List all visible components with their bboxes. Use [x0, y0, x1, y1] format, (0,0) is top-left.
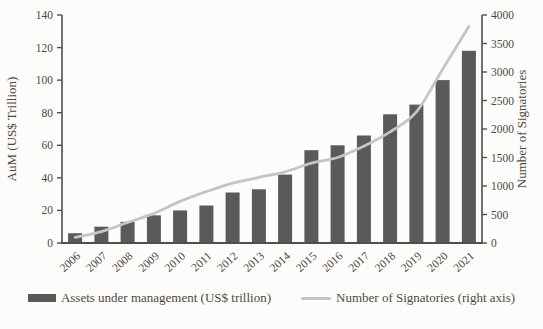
right-axis-tick-label: 0: [491, 237, 497, 249]
chart-area: 0204060801001201400500100015002000250030…: [0, 0, 543, 284]
x-axis-year-label: 2012: [215, 249, 240, 273]
bar-2019: [409, 105, 423, 243]
x-axis-year-label: 2019: [399, 249, 424, 273]
bar-2020: [436, 80, 450, 243]
bar-2011: [199, 206, 213, 244]
x-axis-year-label: 2010: [162, 249, 187, 273]
right-axis-tick-label: 1000: [491, 180, 514, 192]
x-axis-year-label: 2015: [294, 249, 319, 273]
x-axis-year-label: 2014: [267, 249, 292, 273]
right-axis-tick-label: 2000: [491, 123, 514, 135]
bar-2017: [357, 136, 371, 244]
right-axis-title: Number of Signatories: [514, 70, 529, 188]
left-axis-tick-label: 40: [42, 172, 54, 184]
bar-2014: [278, 175, 292, 243]
x-axis-year-label: 2006: [57, 249, 82, 273]
pri-growth-figure: 0204060801001201400500100015002000250030…: [0, 0, 543, 329]
bar-2012: [226, 193, 240, 244]
right-axis-tick-label: 2500: [491, 95, 514, 107]
x-axis-year-label: 2009: [136, 249, 161, 273]
bar-2013: [252, 189, 266, 243]
left-axis-tick-label: 0: [47, 237, 53, 249]
x-axis-year-label: 2017: [346, 249, 371, 273]
x-axis-year-label: 2008: [110, 249, 135, 273]
legend-item-signatories: Number of Signatories (right axis): [301, 290, 515, 306]
line-series-swatch-icon: [301, 297, 331, 300]
left-axis-tick-label: 100: [36, 74, 54, 86]
x-axis-year-label: 2020: [425, 249, 450, 273]
bar-2021: [462, 51, 476, 243]
right-axis-tick-label: 500: [491, 209, 509, 221]
left-axis-title: AuM (US$ Trillion): [4, 77, 19, 182]
left-axis-tick-label: 140: [36, 9, 54, 21]
bar-2010: [173, 210, 187, 243]
left-axis-tick-label: 120: [36, 42, 54, 54]
right-axis-tick-label: 4000: [491, 9, 514, 21]
chart-legend: Assets under management (US$ trillion) N…: [0, 290, 543, 306]
bar-2009: [147, 215, 161, 243]
x-axis-year-label: 2011: [189, 249, 214, 273]
right-axis-tick-label: 1500: [491, 152, 514, 164]
left-axis-tick-label: 80: [42, 107, 54, 119]
legend-label-aum: Assets under management (US$ trillion): [61, 290, 271, 306]
x-axis-year-label: 2018: [372, 249, 397, 273]
right-axis-tick-label: 3000: [491, 66, 514, 78]
right-axis-tick-label: 3500: [491, 38, 514, 50]
legend-item-aum: Assets under management (US$ trillion): [28, 290, 271, 306]
x-axis-year-label: 2016: [320, 249, 345, 273]
left-axis-tick-label: 20: [42, 204, 54, 216]
legend-label-signatories: Number of Signatories (right axis): [336, 290, 515, 306]
bar-series-swatch-icon: [28, 294, 56, 302]
aum-signatories-chart: 0204060801001201400500100015002000250030…: [0, 0, 543, 280]
x-axis-year-label: 2021: [451, 249, 476, 273]
x-axis-year-label: 2013: [241, 249, 266, 273]
x-axis-year-label: 2007: [84, 249, 109, 273]
left-axis-tick-label: 60: [42, 139, 54, 151]
